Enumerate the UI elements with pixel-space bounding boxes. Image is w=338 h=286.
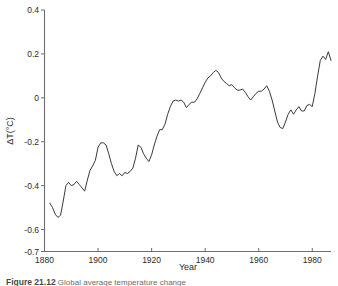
y-tick-label: 0.4 — [27, 5, 39, 15]
data-series-group — [50, 52, 331, 218]
y-tick-label: -0.2 — [24, 137, 39, 147]
axes-group: 0.40.20-0.2-0.4-0.6-0.7 1880190019201940… — [24, 5, 331, 265]
y-tick-label: -0.6 — [24, 225, 39, 235]
y-tick-label: -0.4 — [24, 181, 39, 191]
x-axis-title: Year — [179, 262, 197, 272]
figure-caption: Figure 21.12 Global average temperature … — [6, 277, 332, 286]
y-tick-label: 0.2 — [27, 49, 39, 59]
x-tick-label: 1980 — [303, 255, 322, 265]
x-tick-label: 1880 — [35, 255, 54, 265]
x-tick-label: 1900 — [89, 255, 108, 265]
y-axis-ticks: 0.40.20-0.2-0.4-0.6-0.7 — [24, 5, 44, 257]
y-tick-label: 0 — [34, 93, 39, 103]
x-tick-label: 1960 — [249, 255, 268, 265]
figure-container: 0.40.20-0.2-0.4-0.6-0.7 1880190019201940… — [0, 0, 338, 286]
figure-caption-label: Figure 21.12 — [6, 277, 56, 286]
figure-caption-text: Global average temperature change — [58, 278, 186, 286]
x-tick-label: 1920 — [142, 255, 161, 265]
temperature-anomaly-chart: 0.40.20-0.2-0.4-0.6-0.7 1880190019201940… — [0, 0, 338, 286]
temperature-anomaly-line — [50, 52, 331, 218]
y-axis-title: ΔT(°C) — [5, 117, 15, 145]
x-tick-label: 1940 — [196, 255, 215, 265]
